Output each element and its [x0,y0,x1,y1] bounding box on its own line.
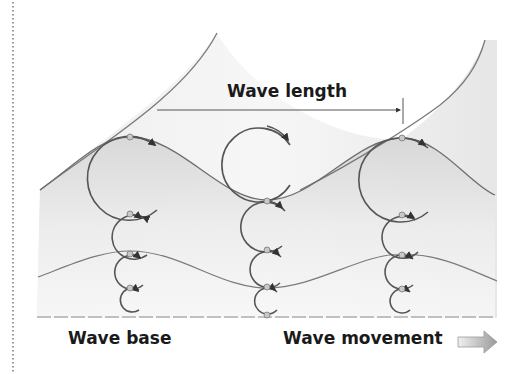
wave-movement-label: Wave movement [283,328,443,348]
wave-diagram [0,0,519,374]
wave-movement-arrow-icon [458,331,497,353]
wave-length-label: Wave length [227,81,347,101]
wave-base-label: Wave base [68,328,171,348]
